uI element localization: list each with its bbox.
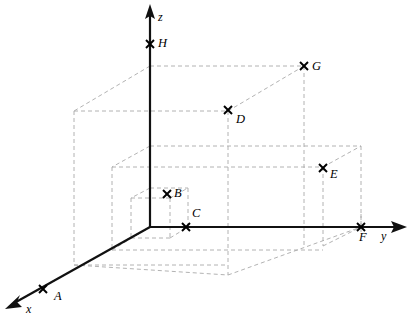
axis-lines [5,4,407,309]
point-label-C: C [192,207,200,220]
axis-label-z: z [158,11,163,23]
axis-label-y: y [381,230,386,242]
diagram-svg [0,0,411,323]
point-label-G: G [312,60,321,73]
x-axis-arrowhead [5,295,22,309]
figure-canvas: A B C D E F G H x y z [0,0,411,323]
point-label-B: B [174,187,182,200]
point-label-H: H [158,37,167,50]
x-axis [16,227,150,302]
marker-B [163,190,171,198]
point-label-E: E [330,168,338,181]
point-label-F: F [359,231,367,244]
point-markers [39,40,365,293]
axis-label-x: x [26,303,31,315]
point-label-A: A [54,290,62,303]
point-label-D: D [236,113,245,126]
dashed-construction-lines [74,44,361,275]
